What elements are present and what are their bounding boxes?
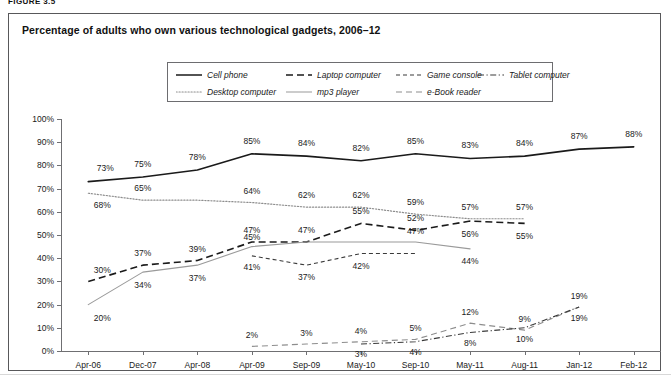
data-point-label: 44%: [462, 256, 479, 266]
data-point-label: 4%: [355, 326, 367, 336]
data-point-label: 62%: [298, 190, 315, 200]
data-point-label: 19%: [571, 313, 588, 323]
data-point-label: 84%: [298, 138, 315, 148]
x-axis-tick-label: Sep-09: [293, 360, 320, 370]
legend-item-mp3-player[interactable]: mp3 player: [286, 84, 359, 100]
x-axis-tick: [579, 351, 580, 355]
y-axis-tick-label: 20%: [37, 300, 54, 310]
legend-swatch-icon: [396, 71, 422, 79]
legend-item-cell-phone[interactable]: Cell phone: [176, 67, 248, 83]
y-axis-tick-label: 60%: [37, 207, 54, 217]
series-line-game-console: [252, 254, 416, 266]
legend-item-desktop-computer[interactable]: Desktop computer: [176, 84, 276, 100]
data-point-label: 3%: [355, 349, 367, 359]
data-point-label: 62%: [352, 190, 369, 200]
data-point-label: 10%: [516, 334, 533, 344]
x-axis-tick-label: Dec-07: [129, 360, 156, 370]
x-axis-tick-label: Apr-08: [185, 360, 211, 370]
data-point-label: 5%: [409, 323, 421, 333]
legend-item-label: Cell phone: [207, 70, 248, 80]
data-point-label: 57%: [462, 202, 479, 212]
data-point-label: 52%: [407, 213, 424, 223]
data-point-label: 55%: [516, 231, 533, 241]
x-axis-tick-label: May-10: [347, 360, 375, 370]
data-point-label: 75%: [134, 159, 151, 169]
legend-swatch-icon: [286, 88, 312, 96]
x-axis-tick: [470, 351, 471, 355]
data-point-label: 87%: [571, 131, 588, 141]
x-axis-tick: [525, 351, 526, 355]
x-axis-tick: [197, 351, 198, 355]
y-axis-tick: [57, 351, 61, 352]
data-point-label: 37%: [298, 272, 315, 282]
legend-item-e-book-reader[interactable]: e-Book reader: [396, 84, 481, 100]
data-point-label: 41%: [243, 262, 260, 272]
data-point-label: 47%: [298, 225, 315, 235]
data-point-label: 88%: [625, 129, 642, 139]
y-axis-tick-label: 90%: [37, 137, 54, 147]
data-point-label: 37%: [189, 273, 206, 283]
data-point-label: 4%: [409, 347, 421, 357]
data-point-label: 68%: [94, 200, 111, 210]
figure-container: Percentage of adults who own various tec…: [8, 13, 661, 371]
legend-item-tablet-computer[interactable]: Tablet computer: [478, 67, 570, 83]
legend-swatch-icon: [176, 88, 202, 96]
data-point-label: 64%: [243, 186, 260, 196]
data-point-label: 59%: [407, 197, 424, 207]
data-point-label: 84%: [516, 138, 533, 148]
data-point-label: 82%: [352, 143, 369, 153]
x-axis-tick-label: Sep-10: [402, 360, 429, 370]
x-axis-tick-label: Feb-12: [620, 360, 647, 370]
legend-item-label: Laptop computer: [317, 70, 381, 80]
legend-item-laptop-computer[interactable]: Laptop computer: [286, 67, 381, 83]
chart-title: Percentage of adults who own various tec…: [22, 24, 381, 36]
data-point-label: 85%: [243, 136, 260, 146]
data-point-label: 83%: [462, 140, 479, 150]
x-axis-tick: [252, 351, 253, 355]
x-axis-tick-label: Aug-11: [511, 360, 538, 370]
data-point-label: 20%: [94, 313, 111, 323]
legend-swatch-icon: [286, 71, 312, 79]
data-point-label: 47%: [407, 226, 424, 236]
legend-swatch-icon: [176, 71, 202, 79]
chart-plot-area: 100%90%80%70%60%50%40%30%20%10%0% Apr-06…: [61, 119, 661, 351]
page-bottom-rule: [0, 374, 671, 375]
x-axis-tick: [88, 351, 89, 355]
legend-item-label: Desktop computer: [207, 87, 276, 97]
data-point-label: 19%: [571, 291, 588, 301]
data-point-label: 2%: [246, 330, 258, 340]
data-point-label: 78%: [189, 152, 206, 162]
data-point-label: 45%: [243, 232, 260, 242]
data-point-label: 55%: [352, 206, 369, 216]
x-axis-tick: [634, 351, 635, 355]
data-point-label: 85%: [407, 136, 424, 146]
legend-item-game-console[interactable]: Game console: [396, 67, 482, 83]
legend-swatch-icon: [478, 71, 504, 79]
data-point-label: 12%: [462, 307, 479, 317]
data-point-label: 39%: [189, 244, 206, 254]
x-axis-tick: [143, 351, 144, 355]
data-point-label: 34%: [134, 280, 151, 290]
x-axis-tick-label: May-11: [456, 360, 484, 370]
y-axis-tick-label: 80%: [37, 160, 54, 170]
data-point-label: 73%: [97, 163, 114, 173]
data-point-label: 42%: [352, 261, 369, 271]
legend-item-label: mp3 player: [317, 87, 359, 97]
data-point-label: 57%: [516, 202, 533, 212]
y-axis-tick-label: 40%: [37, 253, 54, 263]
data-point-label: 3%: [300, 328, 312, 338]
legend-item-label: e-Book reader: [427, 87, 481, 97]
y-axis-tick-label: 10%: [37, 323, 54, 333]
y-axis-tick-label: 70%: [37, 184, 54, 194]
figure-number-label: FIGURE 3.5: [8, 0, 56, 6]
x-axis-tick-label: Jan-12: [566, 360, 592, 370]
y-axis-tick-label: 50%: [37, 230, 54, 240]
data-point-label: 30%: [94, 265, 111, 275]
y-axis-tick-label: 30%: [37, 276, 54, 286]
data-point-label: 8%: [464, 338, 476, 348]
x-axis-tick: [306, 351, 307, 355]
legend-swatch-icon: [396, 88, 422, 96]
x-axis-tick-label: Apr-09: [239, 360, 265, 370]
y-axis-tick-label: 0%: [42, 346, 54, 356]
data-point-label: 9%: [518, 314, 530, 324]
